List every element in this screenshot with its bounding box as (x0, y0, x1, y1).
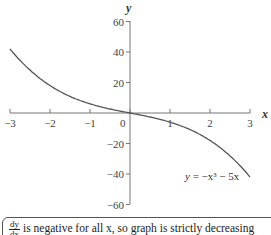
svg-text:−40: −40 (107, 168, 125, 180)
svg-text:−3: −3 (4, 117, 16, 129)
curve-equation-label: y = −x³ − 5x (184, 170, 240, 182)
svg-text:3: 3 (247, 117, 253, 129)
svg-text:−60: −60 (107, 199, 125, 211)
x-ticks: −3−2−1123 (4, 109, 253, 129)
svg-text:40: 40 (113, 46, 125, 58)
x-axis-label: x (261, 107, 268, 121)
svg-text:−20: −20 (107, 138, 125, 150)
chart: −3−2−1123 604020−20−40−60 y x 0 y = −x³ … (0, 0, 271, 235)
svg-text:60: 60 (113, 16, 125, 28)
svg-text:2: 2 (207, 117, 213, 129)
note-text: is negative for all x, so graph is stric… (23, 222, 254, 234)
derivative-note: dy dx is negative for all x, so graph is… (2, 217, 271, 235)
dy-dx-fraction: dy dx (9, 220, 20, 235)
svg-text:−1: −1 (84, 117, 96, 129)
svg-text:20: 20 (113, 77, 125, 89)
svg-text:−2: −2 (44, 117, 56, 129)
origin-label: 0 (120, 117, 126, 129)
y-axis-label: y (124, 1, 132, 15)
